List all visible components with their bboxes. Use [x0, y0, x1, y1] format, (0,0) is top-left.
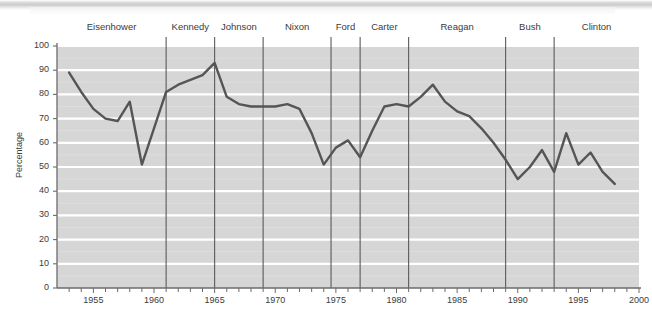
plot-area: [0, 0, 652, 313]
chart-container: EisenhowerKennedyJohnsonNixonFordCarterR…: [0, 0, 652, 313]
